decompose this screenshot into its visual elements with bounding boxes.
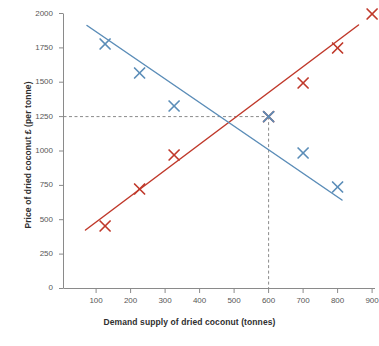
demand-marker-500 — [169, 101, 179, 111]
x-tick-label-900: 900 — [352, 296, 379, 305]
demand-marker-600 — [264, 112, 274, 122]
y-tick-label-500: 500 — [13, 215, 53, 224]
demand-markers — [100, 39, 343, 192]
demand-marker-700 — [298, 148, 308, 158]
supply-marker-400 — [135, 184, 145, 194]
supply-marker-300 — [100, 221, 110, 231]
demand-marker-300 — [100, 39, 110, 49]
demand-line — [87, 26, 342, 201]
supply-marker-500 — [169, 150, 179, 160]
supply-demand-chart: 0 250 500 750 1000 1250 1500 1750 2000 1… — [0, 0, 379, 346]
plot-area — [0, 0, 379, 346]
y-axis-ticks — [59, 14, 64, 289]
supply-marker-800 — [333, 43, 343, 53]
supply-marker-900 — [367, 9, 377, 19]
equilibrium-guides — [64, 117, 269, 289]
supply-line — [86, 25, 359, 230]
y-tick-label-750: 750 — [13, 180, 53, 189]
y-tick-label-1000: 1000 — [13, 146, 53, 155]
y-tick-label-250: 250 — [13, 249, 53, 258]
y-tick-label-1500: 1500 — [13, 77, 53, 86]
supply-marker-700 — [298, 78, 308, 88]
demand-marker-400 — [135, 68, 145, 78]
y-tick-label-0: 0 — [13, 283, 53, 292]
y-axis-title: Price of dried coconut £ (per tonne) — [23, 35, 33, 275]
y-tick-label-1750: 1750 — [13, 43, 53, 52]
x-axis-ticks — [96, 289, 372, 294]
x-axis-title: Demand supply of dried coconut (tonnes) — [0, 317, 379, 327]
y-tick-label-2000: 2000 — [13, 9, 53, 18]
y-tick-label-1250: 1250 — [13, 112, 53, 121]
demand-marker-800 — [333, 182, 343, 192]
